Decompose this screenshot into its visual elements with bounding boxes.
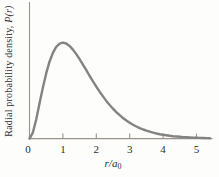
- radial-probability-density-chart: 012345 Radial probability density, P(r) …: [0, 0, 219, 177]
- x-tick-label: 5: [194, 143, 200, 155]
- x-axis-label: r/a0: [105, 157, 122, 172]
- y-axis-label-math: P(r): [3, 5, 15, 24]
- x-tick-label: 4: [160, 143, 166, 155]
- x-tick-label: 3: [127, 143, 133, 155]
- x-axis-label-main: r/a: [105, 157, 118, 169]
- x-tick-label: 1: [60, 143, 66, 155]
- x-tick-label: 0: [25, 143, 31, 155]
- chart-svg: 012345 Radial probability density, P(r) …: [0, 0, 219, 177]
- curve-path: [30, 43, 210, 139]
- y-axis-label-text: Radial probability density,: [3, 23, 14, 137]
- x-tick-label: 2: [94, 143, 100, 155]
- y-axis-label: Radial probability density, P(r): [3, 5, 15, 137]
- x-axis-label-subscript: 0: [117, 162, 121, 171]
